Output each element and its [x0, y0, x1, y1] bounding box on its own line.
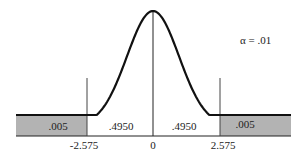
tick-neg-critical: -2.575	[70, 139, 98, 151]
region-left-tail: .005	[48, 120, 67, 132]
alpha-label: α = .01	[240, 34, 271, 46]
region-right-tail: .005	[235, 118, 254, 130]
region-right-center: .4950	[172, 120, 197, 132]
tick-pos-critical: 2.575	[211, 139, 236, 151]
normal-curve-diagram	[0, 0, 307, 158]
region-left-center: .4950	[109, 120, 134, 132]
tick-zero: 0	[150, 139, 156, 151]
